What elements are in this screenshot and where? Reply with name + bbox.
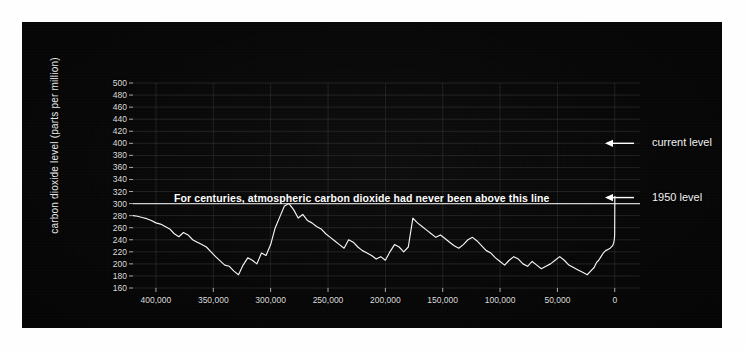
y-tick-320: 320: [97, 187, 127, 197]
y-tick-220: 220: [97, 247, 127, 257]
x-tick-150000: 150,000: [413, 295, 473, 305]
y-tick-380: 380: [97, 150, 127, 160]
y-tick-340: 340: [97, 174, 127, 184]
y-axis-title: carbon dioxide level (parts per million): [49, 41, 60, 251]
chart-panel: carbon dioxide level (parts per million)…: [22, 22, 722, 328]
y-tick-400: 400: [97, 138, 127, 148]
x-tick-400000: 400,000: [126, 295, 186, 305]
y-tick-200: 200: [97, 259, 127, 269]
y-tick-260: 260: [97, 223, 127, 233]
screenshot-root: carbon dioxide level (parts per million)…: [0, 0, 746, 351]
x-tick-350000: 350,000: [183, 295, 243, 305]
y-tick-360: 360: [97, 162, 127, 172]
y-tick-440: 440: [97, 114, 127, 124]
y-tick-160: 160: [97, 283, 127, 293]
1950-level-label: 1950 level: [652, 191, 702, 203]
tickmarks-group: [129, 83, 615, 292]
y-tick-480: 480: [97, 90, 127, 100]
y-tick-420: 420: [97, 126, 127, 136]
current-level-label: current level: [652, 136, 712, 148]
y-tick-300: 300: [97, 199, 127, 209]
x-tick-300000: 300,000: [241, 295, 301, 305]
co2-data-line: [133, 196, 615, 274]
co2-line-chart: [22, 22, 722, 328]
y-tick-240: 240: [97, 235, 127, 245]
x-tick-0: 0: [585, 295, 645, 305]
x-tick-100000: 100,000: [470, 295, 530, 305]
y-tick-280: 280: [97, 211, 127, 221]
y-tick-460: 460: [97, 102, 127, 112]
y-tick-180: 180: [97, 271, 127, 281]
x-tick-250000: 250,000: [298, 295, 358, 305]
x-tick-50000: 50,000: [527, 295, 587, 305]
x-tick-200000: 200,000: [355, 295, 415, 305]
threshold-banner-text: For centuries, atmospheric carbon dioxid…: [174, 192, 549, 204]
y-tick-500: 500: [97, 78, 127, 88]
1950-level-arrow: [605, 194, 634, 201]
current-level-arrow: [605, 140, 634, 147]
